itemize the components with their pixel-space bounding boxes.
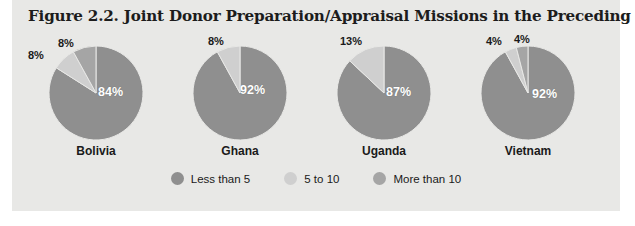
pie-chart-ghana: 92%8%Ghana: [164, 33, 316, 163]
figure-panel: Figure 2.2. Joint Donor Preparation/Appr…: [12, 0, 620, 211]
slice-value-label-bolivia-main: 84%: [98, 85, 123, 99]
country-label-ghana: Ghana: [164, 144, 316, 158]
slice-value-label-uganda-main: 87%: [386, 85, 411, 99]
legend-item-0[interactable]: Less than 5: [171, 172, 250, 185]
legend-label-1: 5 to 10: [304, 173, 339, 185]
legend-swatch-icon-0: [171, 172, 184, 185]
chart-legend: Less than 55 to 10More than 10: [12, 172, 620, 185]
pie-graphic-uganda: [336, 45, 432, 141]
pie-chart-row: 84%8%8%Bolivia92%8%Ghana87%13%Uganda92%4…: [12, 33, 620, 163]
pie-chart-vietnam: 92%4%4%Vietnam: [452, 33, 604, 163]
pie-graphic-bolivia: [48, 45, 144, 141]
legend-swatch-icon-1: [284, 172, 297, 185]
legend-item-2[interactable]: More than 10: [373, 172, 461, 185]
pie-graphic-vietnam: [480, 45, 576, 141]
pie-chart-bolivia: 84%8%8%Bolivia: [20, 33, 172, 163]
slice-value-label-bolivia-2: 8%: [58, 37, 74, 49]
figure-title: Figure 2.2. Joint Donor Preparation/Appr…: [28, 7, 608, 25]
slice-value-label-ghana-main: 92%: [240, 83, 265, 97]
country-label-bolivia: Bolivia: [20, 144, 172, 158]
country-label-vietnam: Vietnam: [452, 144, 604, 158]
slice-value-label-uganda-1: 13%: [340, 35, 362, 47]
slice-value-label-bolivia-1: 8%: [28, 49, 44, 61]
pie-chart-uganda: 87%13%Uganda: [308, 33, 460, 163]
slice-value-label-vietnam-2: 4%: [514, 33, 530, 45]
legend-swatch-icon-2: [373, 172, 386, 185]
slice-value-label-vietnam-1: 4%: [486, 35, 502, 47]
legend-label-0: Less than 5: [191, 173, 250, 185]
country-label-uganda: Uganda: [308, 144, 460, 158]
slice-value-label-ghana-1: 8%: [208, 35, 224, 47]
legend-item-1[interactable]: 5 to 10: [284, 172, 339, 185]
legend-label-2: More than 10: [393, 173, 461, 185]
slice-value-label-vietnam-main: 92%: [532, 87, 557, 101]
